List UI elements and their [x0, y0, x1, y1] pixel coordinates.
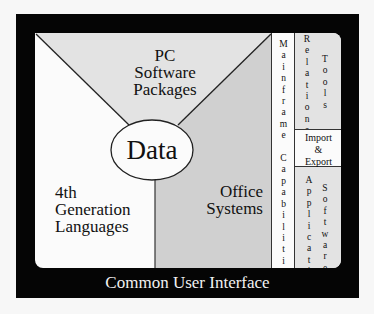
segment-label-line: Packages [120, 81, 210, 98]
segment-label-line: 4th [55, 184, 155, 201]
segment-4th-generation-languages: 4th Generation Languages [55, 184, 155, 235]
segment-office-systems: Office Systems [197, 183, 263, 217]
segment-pc-software: PC Software Packages [120, 47, 210, 98]
ampersand-label: & [295, 144, 341, 156]
import-label: Import [295, 132, 341, 144]
application-label: Application [303, 175, 315, 268]
segment-label-line: Languages [55, 218, 155, 235]
mainframe-capabilities-label: Mainframe Capabilities [272, 39, 295, 268]
diagram-panel: PC Software Packages Data 4th Generation… [35, 33, 341, 268]
import-export-box: Import & Export [295, 129, 341, 167]
data-ellipse-label: Data [111, 136, 193, 164]
relational-tools-box: Relational Tools [295, 33, 341, 129]
export-label: Export [295, 156, 341, 168]
mainframe-capabilities-column: Mainframe Capabilities [271, 33, 295, 268]
segment-label-line: Systems [197, 200, 263, 217]
segment-label-line: Generation [55, 201, 155, 218]
application-software-box: Application Software [295, 169, 341, 268]
segment-label-line: Software [120, 64, 210, 81]
common-user-interface-label: Common User Interface [16, 268, 359, 298]
tools-label: Tools [319, 54, 331, 111]
software-label: Software [319, 183, 331, 268]
segment-label-line: PC [120, 47, 210, 64]
tools-column: Relational Tools Import & Export Applica… [294, 33, 341, 268]
segment-label-line: Office [197, 183, 263, 200]
